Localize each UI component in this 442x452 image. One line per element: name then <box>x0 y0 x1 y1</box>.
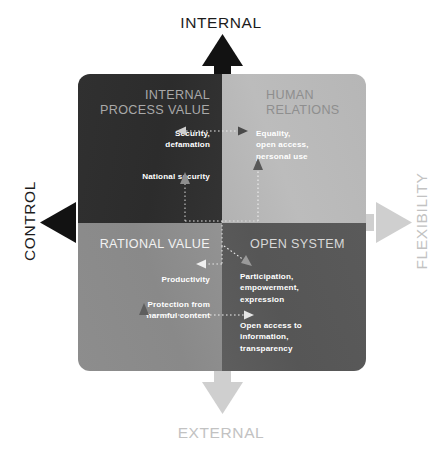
quadrant-item: Protection from harmful content <box>147 299 210 322</box>
quadrant-item: Equality, open access, personal use <box>256 128 309 162</box>
quadrant-item: Security, defamation <box>165 128 210 151</box>
axis-label-control: CONTROL <box>21 161 39 281</box>
quadrant-title: OPEN SYSTEM <box>234 237 354 252</box>
quadrant-panel: INTERNAL PROCESS VALUE Security, defamat… <box>78 74 366 371</box>
diagram-canvas: INTERNAL PROCESS VALUE Security, defamat… <box>0 0 442 452</box>
axis-label-internal: INTERNAL <box>0 14 442 32</box>
axis-label-external: EXTERNAL <box>0 424 442 442</box>
quadrant-title: INTERNAL PROCESS VALUE <box>90 88 210 119</box>
quadrant-item: National security <box>142 171 210 182</box>
quadrant-item: Open access to information, transparency <box>240 320 302 354</box>
quadrant-rational-value[interactable]: RATIONAL VALUE Productivity Protection f… <box>78 223 222 371</box>
quadrant-item: Participation, empowerment, expression <box>240 271 299 305</box>
quadrant-open-system[interactable]: OPEN SYSTEM Participation, empowerment, … <box>222 223 366 371</box>
quadrant-title: HUMAN RELATIONS <box>234 88 354 119</box>
quadrant-human-relations[interactable]: HUMAN RELATIONS Equality, open access, p… <box>222 74 366 223</box>
axis-label-flexibility: FLEXIBILITY <box>413 151 431 291</box>
quadrant-internal-process-value[interactable]: INTERNAL PROCESS VALUE Security, defamat… <box>78 74 222 223</box>
quadrant-item: Productivity <box>161 274 210 285</box>
quadrant-title: RATIONAL VALUE <box>90 237 210 252</box>
